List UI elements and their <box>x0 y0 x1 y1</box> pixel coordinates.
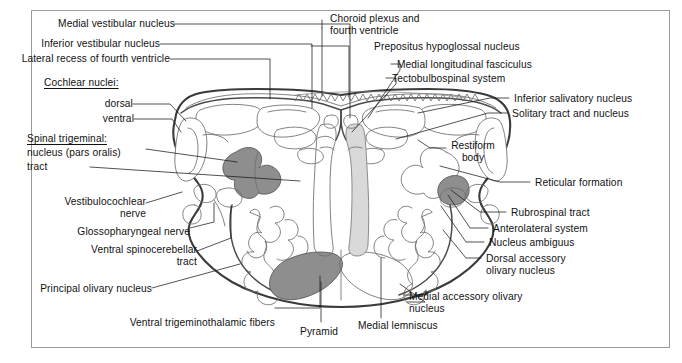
label-ventral-spinocerebellar-tract: Ventral spinocerebellar tract <box>20 244 197 267</box>
label-ventral-trigeminothalamic-fibers: Ventral trigeminothalamic fibers <box>20 317 275 329</box>
label-lateral-recess-of-fourth-ventricle: Lateral recess of fourth ventricle <box>6 53 170 65</box>
label-anterolateral-system: Anterolateral system <box>493 223 588 235</box>
label-dorsal-accessory-olivary-nucleus: Dorsal accessory olivary nucleus <box>486 253 566 276</box>
label-cochlear-nuclei: Cochlear nuclei: <box>44 77 119 89</box>
label-nucleus-ambiguus: Nucleus ambiguus <box>489 237 574 249</box>
label-prepositus-hypoglossal-nucleus: Prepositus hypoglossal nucleus <box>374 41 520 53</box>
label-pyramid: Pyramid <box>300 326 338 338</box>
label-principal-olivary-nucleus: Principal olivary nucleus <box>20 283 152 295</box>
label-spinal-trigeminal-tract: tract <box>27 161 47 173</box>
label-rubrospinal-tract: Rubrospinal tract <box>511 207 590 219</box>
label-cochlear-nuclei-ventral: ventral <box>40 113 134 125</box>
label-glossopharyngeal-nerve: Glossopharyngeal nerve <box>20 226 190 238</box>
label-spinal-trigeminal-nucleus: nucleus (pars oralis) <box>27 147 121 159</box>
label-tectobulbospinal-system: Tectobulbospinal system <box>392 73 505 85</box>
label-medial-longitudinal-fasciculus: Medial longitudinal fasciculus <box>397 59 532 71</box>
label-spinal-trigeminal: Spinal trigeminal: <box>27 133 107 145</box>
label-vestibulocochlear-nerve: Vestibulocochlear nerve <box>20 196 146 219</box>
label-inferior-salivatory-nucleus: Inferior salivatory nucleus <box>514 93 632 105</box>
label-choroid-plexus-and-fourth-ventricle: Choroid plexus and fourth ventricle <box>330 13 420 36</box>
label-medial-lemniscus: Medial lemniscus <box>358 320 438 332</box>
label-restiform-body: Restiform body <box>441 140 505 163</box>
label-inferior-vestibular-nucleus: Inferior vestibular nucleus <box>10 38 160 50</box>
medulla-cross-section-figure: .out{fill:none;stroke:#3a3a3a;stroke-wid… <box>0 0 682 363</box>
label-medial-accessory-olivary-nucleus: Medial accessory olivary nucleus <box>409 291 522 314</box>
label-cochlear-nuclei-dorsal: dorsal <box>40 98 133 110</box>
label-medial-vestibular-nucleus: Medial vestibular nucleus <box>10 18 175 30</box>
label-solitary-tract-and-nucleus: Solitary tract and nucleus <box>512 108 629 120</box>
label-reticular-formation: Reticular formation <box>535 177 622 189</box>
